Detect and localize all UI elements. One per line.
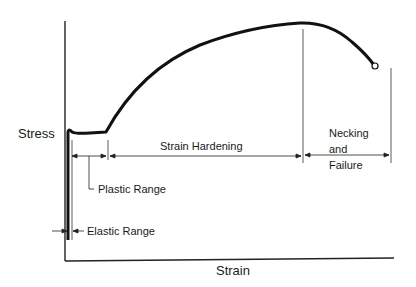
y-axis-label: Stress xyxy=(18,127,55,140)
failure-point-marker xyxy=(372,63,378,69)
elastic-range-label: Elastic Range xyxy=(87,225,155,238)
necking-label-line2: and xyxy=(329,143,347,156)
x-axis xyxy=(65,258,394,261)
strain-hardening-label: Strain Hardening xyxy=(160,140,243,153)
plastic-range-leader xyxy=(89,156,94,189)
necking-label-line1: Necking xyxy=(329,127,369,140)
plastic-range-label: Plastic Range xyxy=(98,183,166,196)
necking-label-line3: Failure xyxy=(329,159,363,172)
x-axis-label: Strain xyxy=(216,264,250,277)
